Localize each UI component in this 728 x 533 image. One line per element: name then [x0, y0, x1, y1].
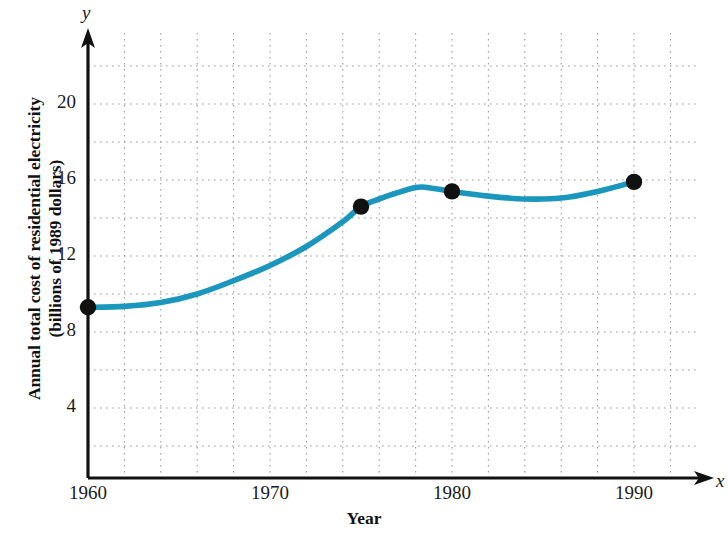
y-axis-title-line-1: Annual total cost of residential electri…: [24, 19, 45, 479]
data-point-marker: [626, 174, 642, 190]
x-axis-title: Year: [0, 508, 728, 529]
x-tick-label-1990: 1990: [594, 482, 674, 504]
data-point-markers: [80, 174, 642, 316]
x-axis-variable-label: x: [716, 470, 724, 492]
y-axis-title-line-2: (billions of 1989 dollars): [45, 19, 66, 479]
grid-lines: [88, 33, 700, 478]
data-point-marker: [444, 183, 460, 199]
chart-page: y x 4 8 12 16 20 1960 1970 1980 1990 Ann…: [0, 0, 728, 533]
x-tick-label-1960: 1960: [48, 482, 128, 504]
y-axis-variable-label: y: [82, 2, 90, 24]
axis-lines: [81, 28, 714, 485]
chart-plot-area: [0, 0, 728, 533]
x-tick-label-1970: 1970: [230, 482, 310, 504]
data-point-marker: [353, 198, 369, 214]
x-tick-label-1980: 1980: [412, 482, 492, 504]
data-point-marker: [80, 299, 96, 315]
y-axis-title: Annual total cost of residential electri…: [24, 19, 65, 479]
